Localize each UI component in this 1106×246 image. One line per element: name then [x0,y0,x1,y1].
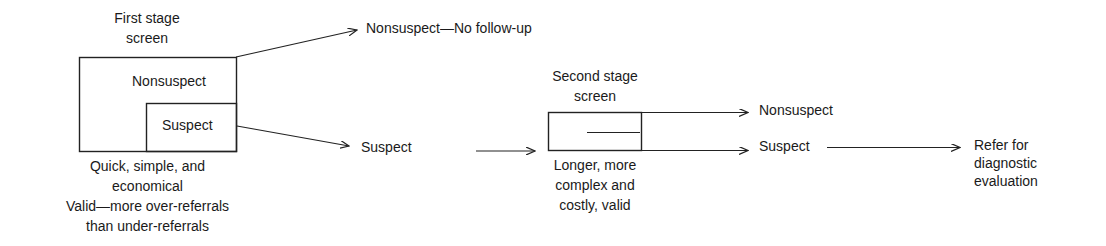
second-stage-box [549,113,642,151]
referral-line3: evaluation [974,172,1038,190]
first-stage-caption: Quick, simple, and economical Valid—more… [30,156,265,236]
arrow-to-suspect [237,126,349,146]
second-stage-caption-line1: Longer, more [530,155,660,175]
second-stage-caption-line2: complex and [530,175,660,195]
second-stage-caption-line3: costly, valid [530,195,660,215]
first-stage-nonsuspect-label: Nonsuspect [132,71,206,91]
second-stage-caption: Longer, more complex and costly, valid [530,155,660,215]
second-stage-title-line2: screen [530,86,660,106]
suspect-label-1: Suspect [361,137,412,157]
nonsuspect-no-followup-label: Nonsuspect—No follow-up [366,18,532,38]
arrow-to-nonsuspect-no-followup [236,30,357,57]
nonsuspect-label-2: Nonsuspect [759,100,833,120]
first-stage-title-line1: First stage [92,8,202,28]
first-stage-caption-line4: than under-referrals [30,216,265,236]
suspect-label-2: Suspect [759,136,810,156]
second-stage-title: Second stage screen [530,66,660,106]
referral-line1: Refer for [974,136,1038,154]
first-stage-title-line2: screen [92,28,202,48]
referral-line2: diagnostic [974,154,1038,172]
first-stage-caption-line3: Valid—more over-referrals [30,196,265,216]
first-stage-suspect-label: Suspect [162,115,213,135]
first-stage-title: First stage screen [92,8,202,48]
second-stage-title-line1: Second stage [530,66,660,86]
first-stage-caption-line2: economical [30,176,265,196]
first-stage-caption-line1: Quick, simple, and [30,156,265,176]
referral-label: Refer for diagnostic evaluation [974,136,1038,190]
